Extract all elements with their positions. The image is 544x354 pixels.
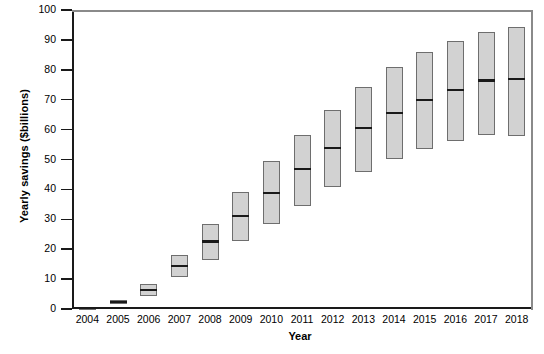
y-axis-tick bbox=[61, 129, 72, 131]
box-plot-median-line bbox=[294, 168, 311, 170]
y-axis-tick-label: 60 bbox=[16, 123, 56, 135]
y-axis-tick-label: 100 bbox=[16, 3, 56, 15]
box-plot-median-line bbox=[171, 265, 188, 267]
y-axis-tick bbox=[61, 248, 72, 250]
y-axis-tick bbox=[61, 39, 72, 41]
y-axis-tick bbox=[61, 308, 72, 310]
box-plot-median-line bbox=[508, 78, 525, 80]
y-axis-tick-label: 40 bbox=[16, 182, 56, 194]
box-plot-median-line bbox=[478, 79, 495, 81]
y-axis-tick bbox=[61, 9, 72, 11]
box-plot-median-line bbox=[386, 112, 403, 114]
box-plot-median-line bbox=[232, 215, 249, 217]
plot-border-right bbox=[531, 10, 533, 310]
box-plot-median-line bbox=[140, 289, 157, 291]
y-axis-tick bbox=[61, 189, 72, 191]
y-axis-tick bbox=[61, 278, 72, 280]
box-plot-median-line bbox=[202, 240, 219, 242]
box-plot-box bbox=[447, 41, 464, 141]
box-plot-median-line bbox=[110, 301, 127, 303]
box-plot-median-line bbox=[355, 127, 372, 129]
x-axis-tick-label-2018: 2018 bbox=[497, 313, 537, 325]
y-axis-tick bbox=[61, 99, 72, 101]
y-axis-tick bbox=[61, 159, 72, 161]
y-axis-tick-label: 90 bbox=[16, 33, 56, 45]
y-axis-tick bbox=[61, 69, 72, 71]
y-axis-tick bbox=[61, 219, 72, 221]
y-axis-tick-label: 70 bbox=[16, 93, 56, 105]
box-plot-box bbox=[508, 27, 525, 136]
plot-border-top bbox=[72, 10, 533, 12]
y-axis-tick-label: 80 bbox=[16, 63, 56, 75]
box-plot-box bbox=[294, 135, 311, 206]
box-plot-chart: Yearly savings ($billions) 1009080706050… bbox=[0, 0, 544, 354]
y-axis-tick-label: 0 bbox=[16, 302, 56, 314]
box-plot-median-line bbox=[79, 307, 96, 309]
box-plot-box bbox=[478, 32, 495, 135]
y-axis-tick-label: 20 bbox=[16, 242, 56, 254]
box-plot-box bbox=[355, 87, 372, 172]
box-plot-median-line bbox=[447, 89, 464, 91]
box-plot-median-line bbox=[416, 99, 433, 101]
box-plot-median-line bbox=[263, 192, 280, 194]
y-axis-tick-label: 50 bbox=[16, 153, 56, 165]
box-plot-median-line bbox=[324, 147, 341, 149]
y-axis-tick-label: 10 bbox=[16, 272, 56, 284]
x-axis-title: Year bbox=[60, 330, 540, 342]
y-axis-tick-label: 30 bbox=[16, 212, 56, 224]
